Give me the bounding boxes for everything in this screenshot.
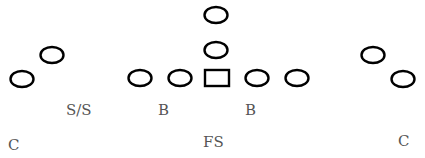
defense-labels: S/SBBCFSC bbox=[8, 101, 409, 154]
left-wide-player-circle-icon bbox=[41, 47, 64, 63]
label-strong-safety: S/S bbox=[66, 101, 92, 119]
label-left-corner: C bbox=[8, 136, 19, 154]
formation-diagram: S/SBBCFSC bbox=[0, 0, 425, 158]
qb-player-circle-icon bbox=[205, 42, 228, 58]
right-guard-player-circle-icon bbox=[246, 70, 269, 86]
label-free-safety: FS bbox=[203, 133, 224, 151]
label-right-corner: C bbox=[398, 132, 409, 150]
right-tackle-player-circle-icon bbox=[286, 70, 309, 86]
left-tackle-player-circle-icon bbox=[129, 70, 152, 86]
left-corner-player-circle-icon bbox=[11, 71, 34, 87]
back-player-circle-icon bbox=[205, 7, 228, 23]
label-left-backer: B bbox=[158, 101, 169, 119]
right-corner-player-circle-icon bbox=[392, 71, 415, 87]
offense-players bbox=[11, 7, 415, 87]
left-guard-player-circle-icon bbox=[169, 70, 192, 86]
center-square-icon bbox=[205, 70, 229, 86]
label-right-backer: B bbox=[245, 101, 256, 119]
right-wide-player-circle-icon bbox=[362, 47, 385, 63]
